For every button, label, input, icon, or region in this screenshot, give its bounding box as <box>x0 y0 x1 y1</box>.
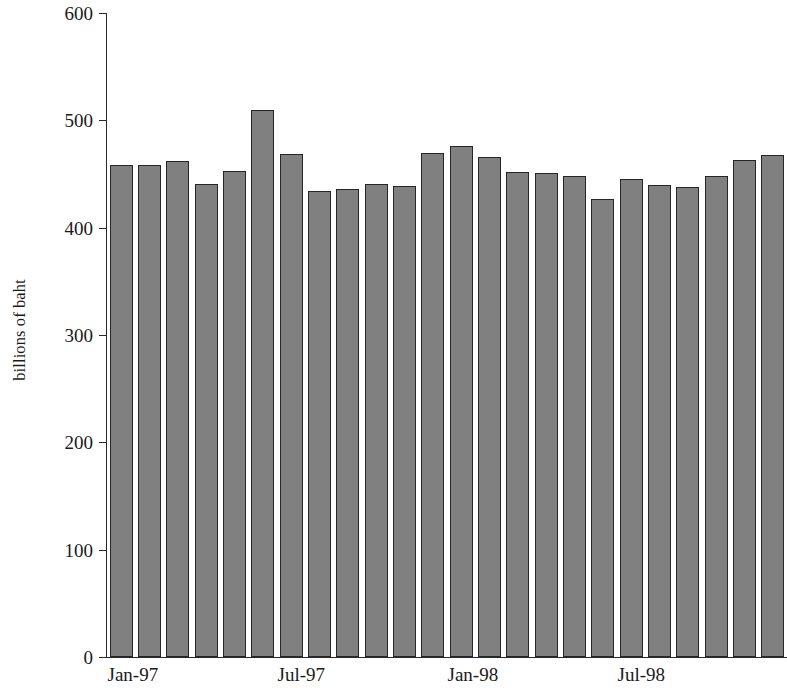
bar <box>478 157 501 657</box>
y-axis-tick <box>99 335 107 336</box>
bar <box>365 184 388 657</box>
y-axis-tick-label: 400 <box>0 219 93 238</box>
y-axis-tick <box>99 120 107 121</box>
bar <box>166 161 189 657</box>
bar <box>110 165 133 657</box>
bar <box>421 153 444 657</box>
y-axis-tick <box>99 442 107 443</box>
bar <box>648 185 671 657</box>
x-axis-line <box>99 657 787 658</box>
bar <box>535 173 558 657</box>
bar <box>733 160 756 657</box>
x-axis-tick-label: Jan-97 <box>108 665 159 684</box>
y-axis-tick-label: 0 <box>0 648 93 667</box>
bar <box>506 172 529 657</box>
bar <box>138 165 161 657</box>
bar <box>195 184 218 657</box>
x-axis-tick-label: Jul-97 <box>278 665 326 684</box>
bar <box>761 155 784 657</box>
y-axis-tick-label: 200 <box>0 433 93 452</box>
x-axis-tick-label: Jan-98 <box>448 665 499 684</box>
bar <box>223 171 246 657</box>
bar <box>705 176 728 657</box>
x-axis-tick-label: Jul-98 <box>618 665 666 684</box>
bar <box>591 199 614 657</box>
bar <box>563 176 586 657</box>
bar <box>620 179 643 657</box>
bar <box>450 146 473 657</box>
bar-chart: billions of baht 0100200300400500600 Jan… <box>0 0 787 700</box>
y-axis-tick-label: 500 <box>0 111 93 130</box>
y-axis-tick <box>99 657 107 658</box>
y-axis-tick-label: 600 <box>0 4 93 23</box>
plot-area <box>107 13 787 657</box>
bar <box>308 191 331 657</box>
bar <box>251 110 274 657</box>
y-axis-tick-label: 100 <box>0 541 93 560</box>
y-axis-tick <box>99 13 107 14</box>
y-axis-tick <box>99 550 107 551</box>
y-axis-tick <box>99 228 107 229</box>
y-axis-tick-label: 300 <box>0 326 93 345</box>
bar <box>393 186 416 657</box>
bar <box>280 154 303 657</box>
bar <box>336 189 359 657</box>
bar <box>676 187 699 657</box>
